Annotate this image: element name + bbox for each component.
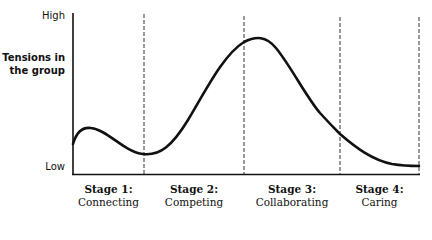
stage-label-2: Stage 2: Competing (144, 183, 244, 209)
stage-3-name: Collaborating (244, 196, 340, 209)
stage-3-number: Stage 3: (244, 183, 340, 196)
stage-label-3: Stage 3: Collaborating (244, 183, 340, 209)
stage-2-number: Stage 2: (144, 183, 244, 196)
stage-4-number: Stage 4: (340, 183, 419, 196)
stage-label-4: Stage 4: Caring (340, 183, 419, 209)
stage-1-number: Stage 1: (73, 183, 144, 196)
stage-1-name: Connecting (73, 196, 144, 209)
tension-curve (73, 38, 419, 166)
stage-2-name: Competing (144, 196, 244, 209)
stage-label-1: Stage 1: Connecting (73, 183, 144, 209)
stage-4-name: Caring (340, 196, 419, 209)
